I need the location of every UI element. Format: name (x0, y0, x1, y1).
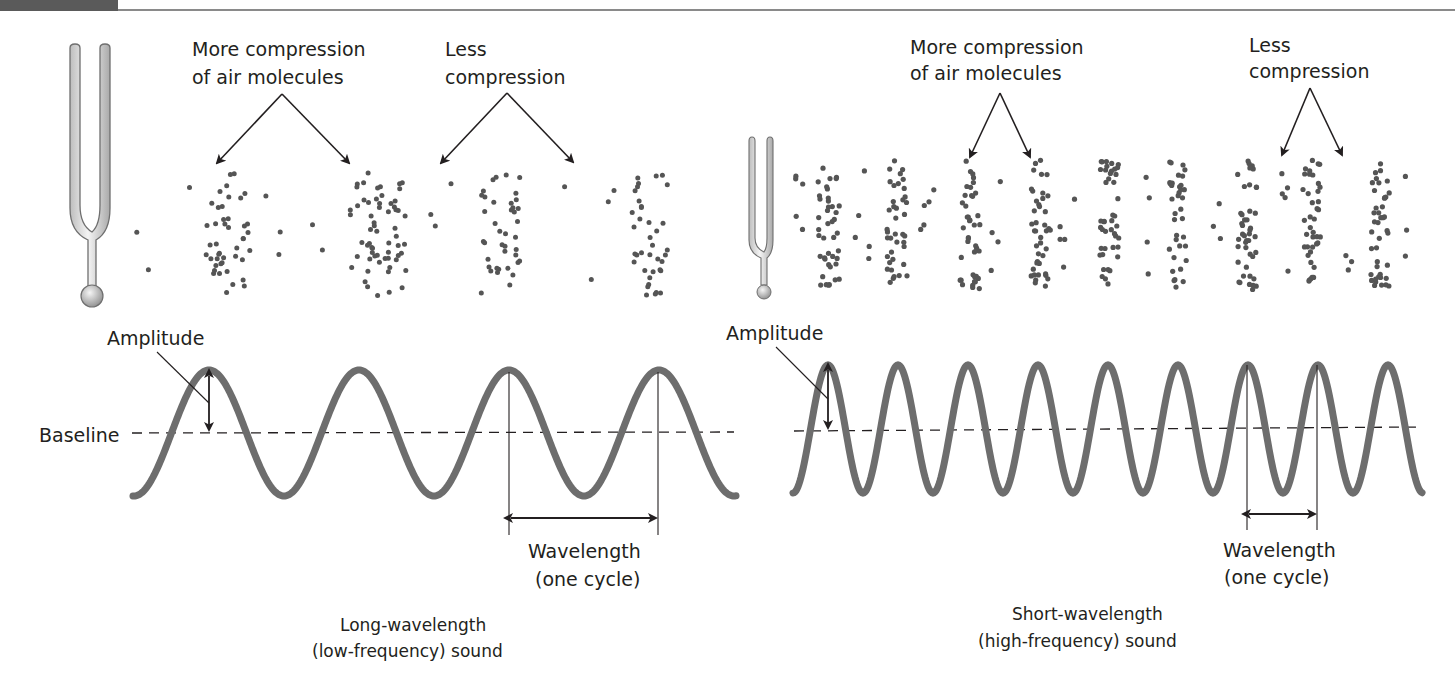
molecule-dot (278, 230, 283, 235)
molecule-dot (888, 179, 893, 184)
molecule-dot (648, 235, 653, 240)
molecule-dot (959, 255, 964, 260)
molecule-dot (1168, 181, 1173, 186)
molecule-dot (1031, 168, 1036, 173)
molecule-dot (818, 283, 823, 288)
molecule-dot (399, 251, 404, 256)
molecule-dot (998, 179, 1003, 184)
molecule-dot (218, 189, 223, 194)
molecule-dot (375, 293, 380, 298)
right-panel: More compression of air molecules Less c… (726, 34, 1422, 651)
molecule-dot (1349, 259, 1354, 264)
molecule-dot (647, 252, 652, 257)
molecule-dot (1247, 282, 1252, 287)
molecule-dot (990, 230, 995, 235)
molecule-dot (224, 183, 229, 188)
molecule-dot (1311, 230, 1316, 235)
molecule-dot (238, 195, 243, 200)
molecule-dot (372, 223, 377, 228)
molecule-dot (1308, 214, 1313, 219)
molecule-dot (1183, 243, 1188, 248)
molecule-dot (1112, 231, 1117, 236)
molecule-dot (213, 221, 218, 226)
molecule-dot (513, 253, 518, 258)
molecule-dot (1171, 255, 1176, 260)
molecule-dot (902, 233, 907, 238)
molecule-dot (1376, 210, 1381, 215)
molecule-dot (1318, 234, 1323, 239)
molecule-dot (632, 225, 637, 230)
molecule-dot (1111, 180, 1116, 185)
molecule-dot (637, 217, 642, 222)
molecule-dot (1115, 254, 1120, 259)
molecule-dot (403, 268, 408, 273)
molecule-dot (377, 205, 382, 210)
molecule-dot (387, 290, 392, 295)
molecule-dot (972, 222, 977, 227)
molecule-dot (889, 267, 894, 272)
molecule-dot (233, 254, 238, 259)
molecule-dot (800, 181, 805, 186)
molecule-dot (513, 191, 518, 196)
molecule-dot (355, 203, 360, 208)
molecule-dot (1062, 237, 1067, 242)
molecule-dot (1097, 253, 1102, 258)
molecule-dot (216, 252, 221, 257)
molecule-dot (394, 234, 399, 239)
molecule-dot (247, 248, 252, 253)
molecule-dot (377, 260, 382, 265)
wavelength-label-line1: Wavelength (1223, 539, 1336, 561)
molecule-dot (1037, 261, 1042, 266)
molecule-dot (827, 176, 832, 181)
molecule-dot (396, 243, 401, 248)
molecule-dot (891, 204, 896, 209)
molecule-dot (215, 256, 220, 261)
molecule-dot (213, 263, 218, 268)
molecule-dot (1241, 274, 1246, 279)
molecule-dot (893, 216, 898, 221)
molecule-dot (234, 246, 239, 251)
molecule-dot (835, 231, 840, 236)
baseline-label: Baseline (39, 424, 120, 446)
molecule-dot (1302, 244, 1307, 249)
molecule-dot (1099, 159, 1104, 164)
sound-wave-diagram: More compression of air molecules Less c… (0, 0, 1455, 691)
molecule-dot (205, 223, 210, 228)
molecule-dot (1038, 240, 1043, 245)
molecule-dot (510, 272, 515, 277)
molecule-dot (402, 242, 407, 247)
molecule-dot (355, 254, 360, 259)
molecule-dot (1385, 178, 1390, 183)
molecule-dot (1037, 204, 1042, 209)
molecule-dot (793, 176, 798, 181)
molecule-dot (397, 181, 402, 186)
molecule-dot (1315, 189, 1320, 194)
molecule-dot (1029, 187, 1034, 192)
molecule-dot (902, 186, 907, 191)
molecule-dot (513, 235, 518, 240)
baseline-line (794, 427, 1422, 431)
molecule-dot (1172, 217, 1177, 222)
molecule-dot (1218, 236, 1223, 241)
molecule-dot (644, 293, 649, 298)
molecule-dot (1236, 279, 1241, 284)
molecule-dot (1369, 229, 1374, 234)
molecule-dot (970, 171, 975, 176)
molecule-dot (263, 194, 268, 199)
molecule-dot (1176, 173, 1181, 178)
molecule-dot (1303, 166, 1308, 171)
molecule-dot (310, 222, 315, 227)
molecule-dot (1310, 200, 1315, 205)
molecule-dot (1285, 185, 1290, 190)
molecule-dot (374, 197, 379, 202)
molecule-dot (968, 185, 973, 190)
molecule-dot (348, 212, 353, 217)
molecule-dot (818, 254, 823, 259)
tuning-fork-icon (749, 137, 773, 299)
molecule-dot (959, 278, 964, 283)
molecule-dot (887, 167, 892, 172)
molecule-dot (276, 252, 281, 257)
molecule-dot (1036, 251, 1041, 256)
rarefaction-label-line1: Less (1249, 34, 1291, 56)
molecule-dot (393, 207, 398, 212)
